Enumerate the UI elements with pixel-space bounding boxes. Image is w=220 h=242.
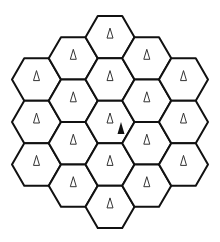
hex-cell-diagram	[0, 0, 220, 242]
hex-grid-canvas	[0, 0, 220, 242]
